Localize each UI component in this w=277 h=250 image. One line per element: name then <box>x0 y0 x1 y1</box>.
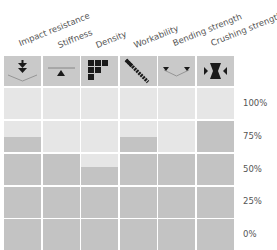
bar-stiffness-100 <box>43 88 80 119</box>
density-icon <box>81 56 118 86</box>
workability-icon <box>120 56 157 86</box>
bar-bending-strength-100 <box>158 88 195 119</box>
bar-impact-resistance-25 <box>4 187 41 218</box>
bar-crushing-strength-75 <box>197 121 234 152</box>
bar-workability-75 <box>120 121 157 152</box>
bending-icon <box>158 56 195 86</box>
y-tick-50: 50% <box>243 164 262 174</box>
bar-density-50 <box>81 154 118 185</box>
bar-workability-50 <box>120 154 157 185</box>
header-workability: Workability <box>132 23 180 50</box>
bar-stiffness-50 <box>43 154 80 185</box>
bar-workability-100 <box>120 88 157 119</box>
y-tick-0: 0% <box>243 229 257 239</box>
impact-icon <box>4 56 41 86</box>
bar-impact-resistance-50 <box>4 154 41 185</box>
bar-density-100 <box>81 88 118 119</box>
crushing-icon <box>197 56 234 86</box>
bar-impact-resistance-75 <box>4 121 41 152</box>
bar-crushing-strength-0 <box>197 219 234 250</box>
bar-stiffness-0 <box>43 219 80 250</box>
bar-stiffness-25 <box>43 187 80 218</box>
bar-stiffness-75 <box>43 121 80 152</box>
y-tick-75: 75% <box>243 131 262 141</box>
header-impact-resistance: Impact resistance <box>17 10 91 48</box>
bar-density-25 <box>81 187 118 218</box>
bar-bending-strength-75 <box>158 121 195 152</box>
bar-bending-strength-0 <box>158 219 195 250</box>
bar-workability-25 <box>120 187 157 218</box>
bar-crushing-strength-25 <box>197 187 234 218</box>
bar-impact-resistance-0 <box>4 219 41 250</box>
y-tick-25: 25% <box>243 196 262 206</box>
bar-crushing-strength-100 <box>197 88 234 119</box>
bar-impact-resistance-100 <box>4 88 41 119</box>
y-tick-100: 100% <box>243 98 267 108</box>
bar-bending-strength-25 <box>158 187 195 218</box>
stiffness-icon <box>43 56 80 86</box>
bar-workability-0 <box>120 219 157 250</box>
bar-crushing-strength-50 <box>197 154 234 185</box>
bar-density-75 <box>81 121 118 152</box>
header-density: Density <box>94 29 128 50</box>
bar-bending-strength-50 <box>158 154 195 185</box>
bar-density-0 <box>81 219 118 250</box>
